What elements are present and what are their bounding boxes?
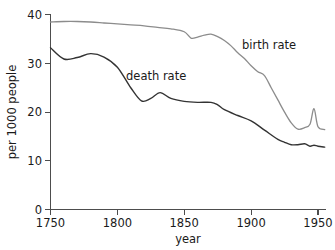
y-tick-label-10: 10: [27, 154, 42, 168]
x-tick-label-1950: 1950: [303, 216, 332, 230]
x-tick-label-1800: 1800: [103, 216, 132, 230]
death-rate-line: [51, 48, 325, 147]
y-axis-ticks: 0 10 20 30 40: [27, 8, 50, 217]
chart-canvas: 0 10 20 30 40 1750 1800 1850 1900 1950 y…: [0, 0, 335, 250]
death-rate-label: death rate: [126, 69, 186, 83]
x-tick-label-1750: 1750: [36, 216, 65, 230]
y-tick-label-30: 30: [27, 57, 42, 71]
x-axis-title: year: [175, 232, 201, 246]
y-tick-label-0: 0: [35, 203, 42, 217]
birth-rate-label: birth rate: [242, 38, 296, 52]
x-tick-label-1850: 1850: [170, 216, 199, 230]
y-tick-label-20: 20: [27, 105, 42, 119]
birth-death-rate-chart: 0 10 20 30 40 1750 1800 1850 1900 1950 y…: [0, 0, 335, 250]
y-tick-label-40: 40: [27, 8, 42, 22]
y-axis-title: per 1000 people: [5, 65, 19, 160]
x-tick-label-1900: 1900: [236, 216, 265, 230]
x-axis-ticks: 1750 1800 1850 1900 1950: [36, 210, 333, 231]
